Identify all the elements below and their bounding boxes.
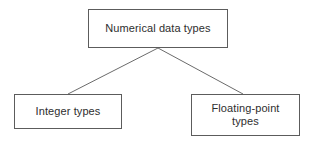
node-integer-types: Integer types (14, 94, 122, 129)
node-numerical-data-types: Numerical data types (88, 9, 228, 48)
node-label: Floating-point types (211, 102, 279, 128)
node-floating-point-types: Floating-point types (191, 94, 300, 136)
node-label: Numerical data types (105, 22, 210, 35)
numerical-data-types-diagram: Numerical data types Integer types Float… (0, 0, 316, 144)
connector-root-to-floating (158, 48, 243, 94)
node-label: Integer types (36, 105, 101, 118)
connector-root-to-integer (68, 48, 158, 94)
